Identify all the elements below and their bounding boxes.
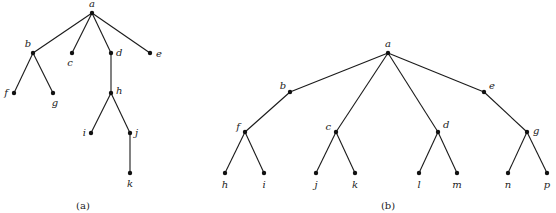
edge-c-k <box>336 132 355 173</box>
tree-b-edges <box>225 53 547 173</box>
node-m <box>455 171 459 175</box>
node-g <box>525 130 529 134</box>
node-label-i: i <box>262 179 265 190</box>
edge-a-b <box>33 13 92 53</box>
node-i <box>262 171 266 175</box>
edge-b-f <box>14 53 33 93</box>
node-b <box>31 51 35 55</box>
tree-a-caption: (a) <box>76 200 90 211</box>
node-label-d: d <box>443 119 449 130</box>
node-label-g: g <box>533 125 539 136</box>
node-label-d: d <box>116 47 122 58</box>
node-label-f: f <box>3 87 10 98</box>
node-c <box>334 130 338 134</box>
node-e <box>148 51 152 55</box>
node-i <box>89 131 93 135</box>
edge-h-i <box>91 93 111 133</box>
node-b <box>288 90 292 94</box>
node-p <box>545 171 549 175</box>
node-c <box>70 51 74 55</box>
node-label-g: g <box>52 97 58 108</box>
tree-a-edges <box>14 13 150 173</box>
node-h <box>223 171 227 175</box>
edge-d-m <box>438 132 457 173</box>
edge-h-j <box>111 93 130 133</box>
edge-e-g <box>484 92 527 132</box>
edge-f-i <box>245 132 264 173</box>
node-label-h: h <box>222 179 228 190</box>
node-g <box>51 91 55 95</box>
edge-a-d <box>388 53 438 132</box>
node-f <box>12 91 16 95</box>
node-label-e: e <box>489 80 495 91</box>
node-a <box>386 51 390 55</box>
node-label-c: c <box>67 57 73 68</box>
node-a <box>90 11 94 15</box>
node-label-k: k <box>352 179 358 190</box>
tree-a: abcdefghijk (a) <box>3 0 162 211</box>
node-label-m: m <box>452 179 461 190</box>
node-label-p: p <box>544 179 551 190</box>
node-label-l: l <box>417 179 420 190</box>
node-k <box>128 171 132 175</box>
tree-a-nodes: abcdefghijk <box>3 0 162 189</box>
node-label-b: b <box>25 38 31 49</box>
node-label-k: k <box>127 178 133 189</box>
edge-g-p <box>527 132 547 173</box>
node-label-j: j <box>133 127 138 138</box>
edge-d-l <box>419 132 438 173</box>
node-label-a: a <box>385 38 391 49</box>
node-label-c: c <box>325 121 331 132</box>
edge-f-h <box>225 132 245 173</box>
tree-b-caption: (b) <box>381 200 395 211</box>
node-d <box>109 51 113 55</box>
edge-a-e <box>388 53 484 92</box>
node-label-a: a <box>89 0 95 9</box>
tree-diagrams: abcdefghijk (a) abefcdghijklmnp (b) <box>0 0 556 213</box>
node-j <box>128 131 132 135</box>
node-j <box>314 171 318 175</box>
node-label-h: h <box>116 85 122 96</box>
edge-g-n <box>508 132 527 173</box>
node-label-n: n <box>505 179 511 190</box>
node-l <box>417 171 421 175</box>
node-h <box>109 91 113 95</box>
tree-b-nodes: abefcdghijklmnp <box>222 38 551 190</box>
node-label-e: e <box>156 48 162 59</box>
node-label-f: f <box>235 121 242 132</box>
edge-a-c <box>336 53 388 132</box>
edge-c-j <box>316 132 336 173</box>
node-k <box>353 171 357 175</box>
tree-b: abefcdghijklmnp (b) <box>222 38 551 211</box>
edge-a-c <box>72 13 92 53</box>
edge-b-g <box>33 53 53 93</box>
node-label-b: b <box>280 80 286 91</box>
node-d <box>436 130 440 134</box>
node-label-j: j <box>312 179 317 190</box>
edge-b-f <box>245 92 290 132</box>
node-e <box>482 90 486 94</box>
node-n <box>506 171 510 175</box>
node-label-i: i <box>83 127 86 138</box>
edge-a-b <box>290 53 388 92</box>
node-f <box>243 130 247 134</box>
